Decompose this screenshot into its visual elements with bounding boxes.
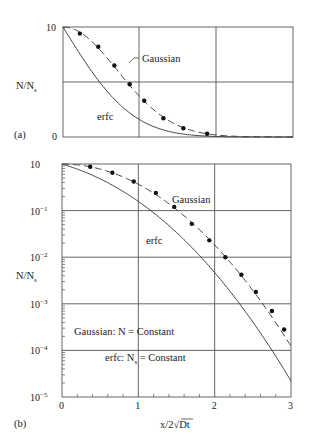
panel-a-ytick-bottom: 0 — [52, 131, 57, 142]
panel-b-ylabel: N/Ns — [16, 270, 37, 284]
panel-b-ytick-label: 10−3 — [30, 298, 48, 310]
panel-b-gaussian-curve — [62, 164, 291, 346]
panel-b-data-point — [207, 238, 211, 242]
panel-b-data-point — [110, 171, 114, 175]
panel-a-data-point — [205, 132, 209, 136]
panel-b-label: (b) — [14, 418, 27, 430]
panel-a-data-point — [142, 99, 146, 103]
panel-a-data-point — [181, 126, 185, 130]
panel-b-xlabel-text: x/2√Dt — [160, 419, 190, 430]
panel-b-ytick-labels: 1010−110−210−310−410−5 — [30, 159, 48, 403]
panel-b-data-point — [154, 191, 158, 195]
panel-a-data-point — [112, 63, 116, 67]
panel-a-ytick-top: 10 — [46, 22, 56, 33]
panel-b-xtick-labels: 0123 — [59, 400, 293, 411]
panel-b-ytick-label: 10 — [30, 159, 40, 170]
panel-a-data-point — [78, 31, 82, 35]
panel-b-xtick-label: 0 — [59, 400, 64, 411]
panel-b-data-point — [172, 205, 176, 209]
panel-b-gaussian-condition: Gaussian: N = Constant — [74, 326, 174, 337]
panel-b-data-point — [282, 327, 286, 331]
panel-b-data-point — [223, 255, 227, 259]
panel-b-erfc-annotation: erfc — [146, 235, 163, 246]
panel-b-erfc-condition: erfc: Ns = Constant — [105, 352, 186, 366]
panel-b-data-point — [132, 179, 136, 183]
panel-a-data-point — [128, 82, 132, 86]
panel-a-data-point — [161, 116, 165, 120]
panel-b-gaussian-annotation: Gaussian — [172, 194, 211, 205]
panel-a-ylabel: N/Ns — [16, 80, 37, 94]
panel-b-data-point — [254, 290, 258, 294]
panel-a-data-point — [96, 45, 100, 49]
panel-b-ytick-label: 10−5 — [30, 391, 48, 403]
panel-b-gaussian-points — [88, 165, 286, 332]
panel-b-xtick-label: 3 — [288, 400, 293, 411]
panel-b-xtick-label: 2 — [212, 400, 217, 411]
panel-b: 1010−110−210−310−410−5 0123 N/Ns (b) Gau… — [14, 159, 293, 430]
panel-b-xtick-label: 1 — [135, 400, 140, 411]
panel-b-data-point — [190, 222, 194, 226]
panel-b-ytick-label: 10−4 — [30, 344, 48, 356]
panel-a-erfc-annotation: erfc — [97, 111, 114, 122]
panel-a-gaussian-leader — [129, 58, 139, 63]
panel-b-data-point — [239, 273, 243, 277]
panel-b-data-point — [88, 165, 92, 169]
panel-a-label: (a) — [14, 129, 26, 141]
panel-a: 10 0 N/Ns (a) Gaussian erfc — [14, 22, 293, 142]
panel-b-data-point — [270, 309, 274, 313]
panel-b-xlabel: x/2√Dt — [160, 419, 193, 430]
figure: 10 0 N/Ns (a) Gaussian erfc 1010−110−210… — [0, 0, 318, 442]
panel-b-ytick-label: 10−2 — [30, 251, 48, 263]
panel-a-gaussian-annotation: Gaussian — [142, 53, 181, 64]
panel-b-ytick-label: 10−1 — [30, 205, 48, 217]
